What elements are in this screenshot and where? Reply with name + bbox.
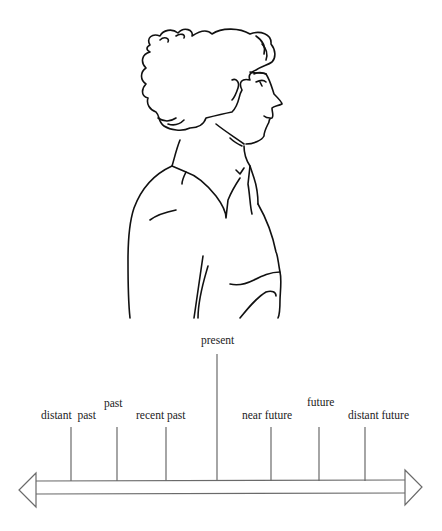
label-distant-future: distant future <box>348 409 409 421</box>
timeline-shaft-bottom <box>36 493 405 494</box>
timeline-arrow <box>0 0 442 531</box>
label-near-future: near future <box>242 409 292 421</box>
label-distant-past: distant past <box>41 409 96 421</box>
timeline-shaft-top <box>36 480 405 481</box>
arrow-right-icon <box>405 470 422 505</box>
label-past: past <box>104 397 123 409</box>
label-recent-past: recent past <box>136 409 186 421</box>
timeline-figure: present past distant past recent past ne… <box>0 0 442 531</box>
arrow-left-icon <box>19 473 36 507</box>
label-present: present <box>201 334 234 346</box>
label-future: future <box>307 396 334 408</box>
